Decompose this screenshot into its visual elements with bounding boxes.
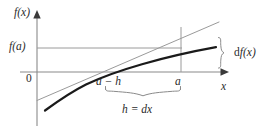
increment-h-prefix: h = d [122, 103, 147, 115]
increment-h-suffix: x [147, 103, 152, 115]
guide-lines-group [37, 27, 182, 72]
x-axis-arrowhead [221, 68, 230, 75]
right-brace-df [219, 38, 225, 69]
tangent-line [37, 22, 219, 101]
tick-label-a-minus-h: a − h [96, 76, 121, 88]
y-axis-arrowhead [33, 10, 40, 19]
function-curve [45, 47, 216, 110]
tick-label-a: a [175, 76, 181, 88]
value-at-a-label: f(a) [9, 41, 26, 53]
origin-label: 0 [26, 73, 32, 85]
bottom-brace-hdx [106, 89, 181, 96]
differential-fx-symbol: f(x) [240, 46, 256, 58]
x-axis-label: x [221, 81, 226, 93]
bottom-brace-label: h = dx [122, 104, 152, 116]
y-axis-label: f(x) [14, 7, 30, 19]
figure-canvas: f(x) f(a) 0 a − h a x df(x) h = dx [0, 0, 279, 134]
right-brace-label: df(x) [234, 47, 256, 59]
